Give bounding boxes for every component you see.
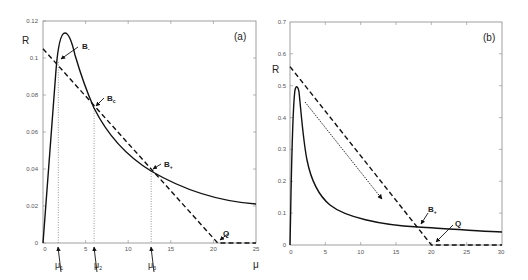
panel-a-y-axis-label: R xyxy=(22,35,29,46)
panel-b-y-axis-label: R xyxy=(272,64,279,75)
y-tick-label: 0.04 xyxy=(26,166,38,172)
y-tick-label: 0.2 xyxy=(278,178,287,184)
y-tick-label: 0.7 xyxy=(278,19,287,25)
panel-a-solid-curve xyxy=(43,33,256,243)
panel-b-solid-curve xyxy=(290,87,502,245)
y-tick-label: 0 xyxy=(35,240,39,246)
y-tick-label: 0.06 xyxy=(26,129,38,135)
x-tick-label: 15 xyxy=(167,246,174,252)
y-tick-label: 0.1 xyxy=(278,210,287,216)
y-tick-label: 0.08 xyxy=(26,92,38,98)
marker-mu2: μ2 xyxy=(94,260,102,271)
y-tick-label: 0.1 xyxy=(30,55,39,61)
x-tick-label: 5 xyxy=(324,249,328,255)
annotation-b-plus: B+ xyxy=(428,205,437,215)
annotation-q: Q xyxy=(223,229,229,238)
panel-b-x-tick-labels: 0 5 10 15 20 25 30 xyxy=(289,249,505,255)
y-tick-label: 0.5 xyxy=(278,83,287,89)
marker-mu1: μ1 xyxy=(55,260,63,271)
annotation-q: Q xyxy=(455,219,461,228)
x-tick-label: 5 xyxy=(84,246,88,252)
panel-b-x-ticks xyxy=(325,22,466,245)
panel-b-y-ticks xyxy=(290,54,502,213)
panel-a-mu-guides xyxy=(58,62,151,243)
panel-b: 0 0.1 0.2 0.3 0.4 0.5 0.6 0.7 0 5 10 1 xyxy=(272,19,505,255)
x-tick-label: 10 xyxy=(125,246,132,252)
panel-b-direction-arrow xyxy=(305,102,382,199)
y-tick-label: 0.4 xyxy=(278,115,287,121)
annotation-b-c: Bc xyxy=(107,94,116,104)
x-tick-label: 10 xyxy=(357,249,364,255)
x-tick-label: 0 xyxy=(289,249,293,255)
y-tick-label: 0 xyxy=(283,242,287,248)
panel-a-label: (a) xyxy=(234,31,246,42)
figure: 0 0.02 0.04 0.06 0.08 0.1 0.12 0 5 10 15… xyxy=(0,0,528,280)
panel-a-y-tick-labels: 0 0.02 0.04 0.06 0.08 0.1 0.12 xyxy=(26,18,38,246)
x-tick-label: 0 xyxy=(43,246,47,252)
y-tick-label: 0.3 xyxy=(278,146,287,152)
x-tick-label: 25 xyxy=(253,246,260,252)
panel-b-frame xyxy=(290,22,502,245)
marker-mu3: μ3 xyxy=(148,260,156,271)
panel-b-y-tick-labels: 0 0.1 0.2 0.3 0.4 0.5 0.6 0.7 xyxy=(278,19,287,248)
annotation-b-plus: B+ xyxy=(164,160,173,170)
x-tick-label: 25 xyxy=(463,249,470,255)
panel-a-dashed-line xyxy=(43,49,256,243)
panel-b-label: (b) xyxy=(483,32,495,43)
y-tick-label: 0.12 xyxy=(26,18,38,24)
panel-a-x-ticks xyxy=(86,21,214,243)
panel-a: 0 0.02 0.04 0.06 0.08 0.1 0.12 0 5 10 15… xyxy=(22,18,260,272)
panel-b-dashed-line xyxy=(290,67,502,245)
y-tick-label: 0.02 xyxy=(26,203,38,209)
annotation-b-minus: B- xyxy=(82,42,90,52)
x-tick-label: 15 xyxy=(393,249,400,255)
panel-a-x-axis-label: μ xyxy=(253,259,259,270)
x-tick-label: 20 xyxy=(210,246,217,252)
y-tick-label: 0.6 xyxy=(278,51,287,57)
x-tick-label: 30 xyxy=(498,249,505,255)
x-tick-label: 20 xyxy=(428,249,435,255)
